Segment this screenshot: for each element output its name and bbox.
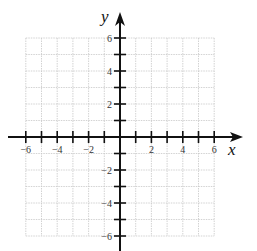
x-tick-label: −2 xyxy=(83,144,94,155)
y-tick-label: −6 xyxy=(101,231,112,242)
x-tick-label: 4 xyxy=(180,144,185,155)
x-tick-label: −4 xyxy=(52,144,63,155)
coordinate-plane: −6−4−2246642−2−4−6 x y xyxy=(0,0,257,251)
x-axis-label: x xyxy=(227,140,236,159)
y-tick-label: 6 xyxy=(107,33,112,44)
axes xyxy=(8,12,243,251)
x-tick-label: −6 xyxy=(20,144,31,155)
y-tick-label: 2 xyxy=(107,99,112,110)
y-tick-label: −4 xyxy=(101,198,112,209)
y-tick-label: −2 xyxy=(101,165,112,176)
y-axis-label: y xyxy=(99,7,109,26)
y-tick-label: 4 xyxy=(107,66,112,77)
x-tick-label: 2 xyxy=(149,144,154,155)
x-tick-label: 6 xyxy=(212,144,217,155)
